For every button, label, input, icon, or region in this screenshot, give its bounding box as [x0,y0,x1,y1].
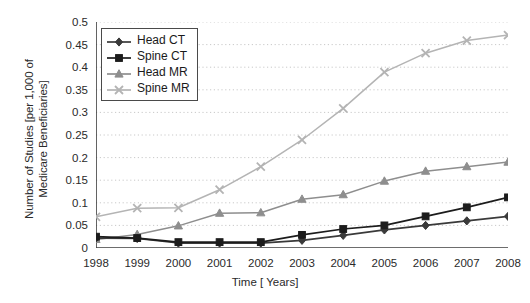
legend-label: Spine CT [137,49,187,63]
data-point-marker [463,217,470,225]
x-tick-label: 2001 [207,256,233,270]
data-point-marker [257,239,264,246]
x-tick-label: 1999 [124,256,150,270]
x-tick-label: 2002 [248,256,274,270]
data-point-marker [381,222,388,229]
data-point-marker [116,55,123,62]
x-tick-label: 2008 [495,256,521,270]
legend-item-spine-mr: Spine MR [106,80,190,96]
series-head-mr [96,158,508,243]
x-tick-label: 2000 [166,256,192,270]
chart-legend: Head CTSpine CTHead MRSpine MR [101,28,198,101]
x-tick-label: 1998 [83,256,109,270]
x-tick-label: 2005 [372,256,398,270]
legend-marker-triangle-icon [106,66,132,78]
data-point-marker [134,235,141,242]
data-point-marker [96,233,99,240]
legend-label: Head CT [137,33,185,47]
data-point-marker [298,136,306,144]
y-tick-label: 0.35 [66,84,88,96]
x-axis-tick-labels: 1998199920002001200220032004200520062007… [0,252,530,272]
legend-marker-cross-icon [106,82,132,94]
y-tick-label: 0.25 [66,129,88,141]
x-tick-label: 2003 [289,256,315,270]
data-point-marker [504,158,508,165]
data-point-marker [422,49,430,57]
data-point-marker [175,239,182,246]
data-point-marker [115,38,122,46]
data-point-marker [504,212,508,220]
legend-item-spine-ct: Spine CT [106,48,190,64]
legend-item-head-mr: Head MR [106,64,190,80]
y-tick-label: 0.05 [66,219,88,231]
x-tick-label: 2006 [413,256,439,270]
x-tick-label: 2007 [454,256,480,270]
data-point-marker [216,239,223,246]
data-point-marker [505,194,508,201]
x-tick-label: 2004 [330,256,356,270]
data-point-marker [340,226,347,233]
legend-marker-diamond-icon [106,34,132,46]
y-tick-label: 0.1 [72,197,88,209]
data-point-marker [422,221,429,229]
data-point-marker [380,68,388,76]
data-point-marker [339,104,347,112]
legend-label: Head MR [137,65,188,79]
data-point-marker [422,213,429,220]
y-tick-label: 0.15 [66,174,88,186]
y-tick-label: 0.45 [66,39,88,51]
y-tick-label: 0.3 [72,106,88,118]
data-point-marker [463,204,470,211]
y-tick-label: 0.5 [72,16,88,28]
y-tick-label: 0.2 [72,152,88,164]
data-point-marker [216,186,224,194]
chart-figure: Number of Studies [per 1,000 of Medicare… [0,0,530,303]
data-point-marker [299,231,306,238]
legend-item-head-ct: Head CT [106,32,190,48]
legend-label: Spine MR [137,81,190,95]
x-axis-title: Time [ Years] [0,276,530,288]
y-tick-label: 0.4 [72,61,88,73]
data-point-marker [257,163,265,171]
legend-marker-square-icon [106,50,132,62]
